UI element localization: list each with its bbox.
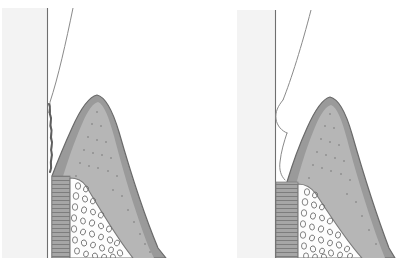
crown-contour-line (283, 10, 311, 100)
restoration-margin-tail (280, 133, 287, 180)
tooth-enamel-band (237, 10, 275, 258)
smooth-restoration-margin-contour (276, 100, 287, 133)
periodontal-ligament-band (52, 176, 70, 258)
panel-left-illustration (0, 0, 199, 275)
tooth-enamel-band (2, 8, 47, 258)
figure-panel-right (199, 0, 398, 275)
irregular-root-surface-deposit (49, 104, 52, 172)
figure-sheet (0, 0, 398, 275)
periodontal-ligament-band (276, 182, 298, 258)
panel-right-illustration (199, 0, 398, 275)
crown-contour-line (50, 8, 73, 102)
figure-panel-left (0, 0, 199, 275)
